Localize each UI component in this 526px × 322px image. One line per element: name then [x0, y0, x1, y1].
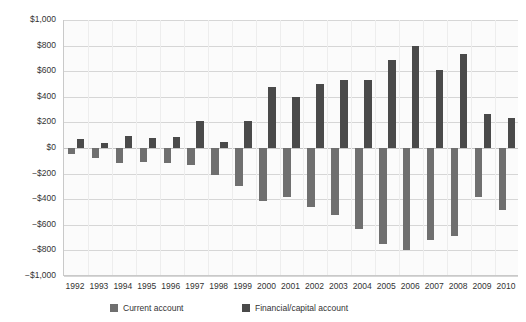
bar-current-account-1997 — [187, 148, 195, 165]
y-axis-tick-label: $600 — [0, 66, 56, 75]
vertical-gridline — [136, 20, 137, 275]
bar-current-account-2005 — [379, 148, 387, 244]
bar-current-account-1994 — [116, 148, 124, 163]
legend-swatch-icon — [110, 304, 118, 312]
y-axis-tick-label: −$600 — [0, 220, 56, 229]
bar-financial-capital-account-1993 — [101, 143, 109, 148]
bar-financial-capital-account-2007 — [436, 70, 444, 148]
bar-current-account-2006 — [403, 148, 411, 250]
y-axis-tick-label: −$800 — [0, 245, 56, 254]
vertical-gridline — [184, 20, 185, 275]
legend-swatch-icon — [242, 304, 250, 312]
bar-current-account-2008 — [451, 148, 459, 236]
bar-current-account-2007 — [427, 148, 435, 240]
plot-area — [63, 20, 518, 276]
bar-current-account-2002 — [307, 148, 315, 207]
vertical-gridline — [423, 20, 424, 275]
y-axis-tick-label: −$400 — [0, 194, 56, 203]
bar-financial-capital-account-1998 — [220, 142, 228, 148]
bar-current-account-2000 — [259, 148, 267, 201]
vertical-gridline — [112, 20, 113, 275]
y-axis-tick-label: $200 — [0, 117, 56, 126]
bar-current-account-1992 — [68, 148, 76, 154]
y-axis-tick-label: $800 — [0, 41, 56, 50]
gridline — [64, 276, 518, 277]
bar-current-account-1995 — [140, 148, 148, 162]
bar-current-account-2001 — [283, 148, 291, 197]
y-axis-tick-label: $0 — [0, 143, 56, 152]
vertical-gridline — [471, 20, 472, 275]
bar-financial-capital-account-2000 — [268, 87, 276, 148]
vertical-gridline — [375, 20, 376, 275]
vertical-gridline — [351, 20, 352, 275]
bar-financial-capital-account-2005 — [388, 60, 396, 148]
bar-current-account-2009 — [475, 148, 483, 197]
bar-financial-capital-account-1996 — [173, 137, 181, 148]
gridline — [64, 71, 518, 72]
bar-current-account-1998 — [211, 148, 219, 175]
bar-financial-capital-account-2002 — [316, 84, 324, 148]
vertical-gridline — [208, 20, 209, 275]
bar-financial-capital-account-2009 — [484, 114, 492, 148]
legend-label: Current account — [123, 303, 183, 313]
vertical-gridline — [280, 20, 281, 275]
y-axis-tick-label: $1,000 — [0, 15, 56, 24]
bar-financial-capital-account-1997 — [196, 121, 204, 148]
bar-current-account-1996 — [164, 148, 172, 163]
vertical-gridline — [232, 20, 233, 275]
gridline — [64, 250, 518, 251]
bar-financial-capital-account-1999 — [244, 121, 252, 148]
chart-legend: Current accountFinancial/capital account — [0, 303, 526, 319]
bar-financial-capital-account-1995 — [149, 138, 157, 148]
vertical-gridline — [160, 20, 161, 275]
gridline — [64, 20, 518, 21]
y-axis-tick-label: −$1,000 — [0, 271, 56, 280]
vertical-gridline — [327, 20, 328, 275]
y-axis-tick-label: −$200 — [0, 169, 56, 178]
bar-financial-capital-account-1992 — [77, 139, 85, 148]
bar-current-account-2004 — [355, 148, 363, 229]
balance-of-payments-chart: $1,000$800$600$400$200$0−$200−$400−$600−… — [0, 0, 526, 322]
vertical-gridline — [88, 20, 89, 275]
legend-label: Financial/capital account — [255, 303, 348, 313]
bar-financial-capital-account-1994 — [125, 136, 133, 148]
bar-financial-capital-account-2010 — [508, 118, 516, 148]
y-axis-tick-label: $400 — [0, 92, 56, 101]
bar-financial-capital-account-2001 — [292, 97, 300, 148]
legend-item-financial[interactable]: Financial/capital account — [242, 303, 348, 313]
bar-financial-capital-account-2006 — [412, 46, 420, 148]
bar-current-account-2003 — [331, 148, 339, 215]
vertical-gridline — [495, 20, 496, 275]
gridline — [64, 97, 518, 98]
legend-item-current[interactable]: Current account — [110, 303, 183, 313]
x-axis-tick-label: 2010 — [491, 281, 521, 291]
vertical-gridline — [399, 20, 400, 275]
vertical-gridline — [256, 20, 257, 275]
bar-financial-capital-account-2004 — [364, 80, 372, 148]
vertical-gridline — [447, 20, 448, 275]
gridline — [64, 46, 518, 47]
vertical-gridline — [303, 20, 304, 275]
gridline — [64, 122, 518, 123]
bar-current-account-2010 — [499, 148, 507, 210]
bar-financial-capital-account-2003 — [340, 80, 348, 148]
bar-current-account-1999 — [235, 148, 243, 186]
bar-financial-capital-account-2008 — [460, 54, 468, 148]
bar-current-account-1993 — [92, 148, 100, 158]
